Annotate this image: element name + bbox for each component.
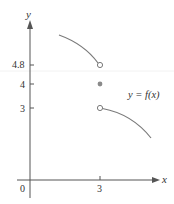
y-tick-label-4: 4 bbox=[20, 79, 25, 90]
open-circle-upper bbox=[97, 62, 102, 67]
x-tick-label-3: 3 bbox=[97, 183, 102, 194]
chart: y x 0 4.8 4 3 3 y = f(x) bbox=[0, 0, 174, 204]
y-tick-label-3: 3 bbox=[20, 103, 25, 114]
origin-label: 0 bbox=[20, 183, 25, 194]
y-axis-label: y bbox=[25, 8, 31, 20]
x-axis-label: x bbox=[161, 173, 167, 185]
filled-dot bbox=[98, 82, 103, 87]
x-axis-arrow-icon bbox=[152, 177, 160, 183]
y-axis-arrow-icon bbox=[27, 20, 33, 29]
curve-label: y = f(x) bbox=[127, 89, 160, 101]
y-tick-label-4-8: 4.8 bbox=[12, 59, 25, 70]
right-branch-curve bbox=[103, 109, 152, 139]
left-branch-curve bbox=[59, 35, 98, 63]
open-circle-lower bbox=[97, 105, 102, 110]
